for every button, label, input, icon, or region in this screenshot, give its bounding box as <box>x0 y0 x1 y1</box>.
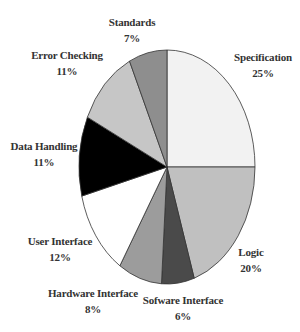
slice-label-percent: 8% <box>48 301 138 317</box>
slice-label-error-checking: Error Checking11% <box>31 47 103 79</box>
slice-label-hardware-interface: Hardware Interface8% <box>48 285 138 317</box>
slice-label-name: Standards <box>109 16 156 28</box>
slice-label-percent: 11% <box>11 154 78 170</box>
slice-label-name: User Interface <box>28 235 93 247</box>
slice-label-percent: 11% <box>31 63 103 79</box>
slice-label-percent: 20% <box>238 260 263 276</box>
slice-label-name: Data Handling <box>11 140 78 152</box>
slice-label-name: Specification <box>234 51 292 63</box>
slice-label-logic: Logic20% <box>238 244 263 276</box>
slice-label-name: Logic <box>238 246 263 258</box>
slice-label-standards: Standards7% <box>109 14 156 46</box>
slice-label-percent: 7% <box>109 30 156 46</box>
slice-label-percent: 12% <box>28 249 93 265</box>
slice-label-user-interface: User Interface12% <box>28 233 93 265</box>
slice-label-sofware-interface: Sofware Interface6% <box>143 292 223 324</box>
slice-label-name: Sofware Interface <box>143 294 223 306</box>
slice-label-percent: 6% <box>143 308 223 324</box>
pie-chart: Specification25%Logic20%Sofware Interfac… <box>0 0 300 332</box>
slice-label-percent: 25% <box>234 65 292 81</box>
slice-label-name: Error Checking <box>31 49 103 61</box>
slice-label-data-handling: Data Handling11% <box>11 138 78 170</box>
slice-label-specification: Specification25% <box>234 49 292 81</box>
slice-label-name: Hardware Interface <box>48 287 138 299</box>
